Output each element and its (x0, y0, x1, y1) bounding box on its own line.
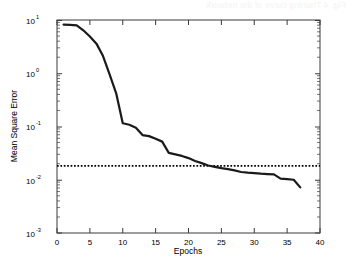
plot-frame (57, 20, 320, 233)
x-tick-label-2: 10 (118, 238, 127, 247)
x-tick-label-0: 0 (55, 238, 60, 247)
x-tick-label-8: 40 (316, 238, 325, 247)
x-tick-label-3: 15 (151, 238, 160, 247)
figure-canvas: Fig. 4 Training curve of the network 1 (0, 0, 354, 278)
mse-vs-epochs-chart: 10 1 10 0 10 -1 10 -2 10 -3 051015202530… (0, 0, 354, 278)
y-tick-exp-2: -1 (36, 120, 41, 126)
y-tick-label-2: 10 (26, 123, 35, 132)
y-tick-label-0: 10 (26, 17, 35, 26)
x-axis-title: Epochs (174, 246, 202, 256)
y-tick-exp-1: 0 (36, 67, 39, 73)
y-axis-title: Mean Square Error (9, 90, 19, 162)
x-tick-label-6: 30 (250, 238, 259, 247)
x-tick-label-1: 5 (88, 238, 93, 247)
y-tick-label-3: 10 (26, 177, 35, 186)
y-tick-exp-0: 1 (36, 14, 39, 20)
y-tick-label-1: 10 (26, 70, 35, 79)
y-tick-exp-4: -3 (36, 227, 41, 233)
x-tick-label-7: 35 (283, 238, 292, 247)
y-axis-tick-labels: 10 1 10 0 10 -1 10 -2 10 -3 (26, 14, 41, 239)
y-tick-exp-3: -2 (36, 174, 41, 180)
y-tick-label-4: 10 (26, 230, 35, 239)
x-tick-label-5: 25 (217, 238, 226, 247)
